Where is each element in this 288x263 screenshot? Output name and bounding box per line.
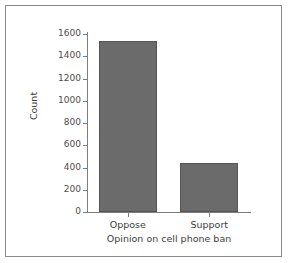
x-tick-label: Support <box>169 219 249 230</box>
x-tick-mark <box>128 213 129 217</box>
x-tick-label: Oppose <box>88 219 168 230</box>
x-axis-title: Opinion on cell phone ban <box>87 233 251 244</box>
bar-support <box>180 163 238 212</box>
y-tick-label-wrap: 1600 <box>0 34 81 35</box>
y-tick-label-wrap: 0 <box>0 212 81 213</box>
chart-figure: 02004006008001000120014001600 OpposeSupp… <box>0 0 288 263</box>
bar-oppose <box>99 41 157 212</box>
x-axis-line <box>87 212 251 213</box>
y-tick-label: 1400 <box>41 51 81 60</box>
y-tick-label-wrap: 800 <box>0 123 81 124</box>
y-tick-label-wrap: 400 <box>0 168 81 169</box>
plot-area <box>87 34 250 212</box>
y-tick-mark <box>83 212 87 213</box>
y-tick-label: 1200 <box>41 74 81 83</box>
x-tick-mark <box>209 213 210 217</box>
y-tick-label: 1000 <box>41 96 81 105</box>
y-tick-label: 400 <box>41 163 81 172</box>
y-tick-label-wrap: 1000 <box>0 101 81 102</box>
y-axis-title: Count <box>28 92 39 120</box>
y-tick-label: 1600 <box>41 29 81 38</box>
y-tick-label: 800 <box>41 118 81 127</box>
y-tick-label: 0 <box>41 207 81 216</box>
y-tick-label-wrap: 200 <box>0 190 81 191</box>
y-tick-label: 200 <box>41 185 81 194</box>
y-tick-label-wrap: 1400 <box>0 56 81 57</box>
y-tick-label: 600 <box>41 140 81 149</box>
y-tick-label-wrap: 600 <box>0 145 81 146</box>
y-tick-label-wrap: 1200 <box>0 79 81 80</box>
